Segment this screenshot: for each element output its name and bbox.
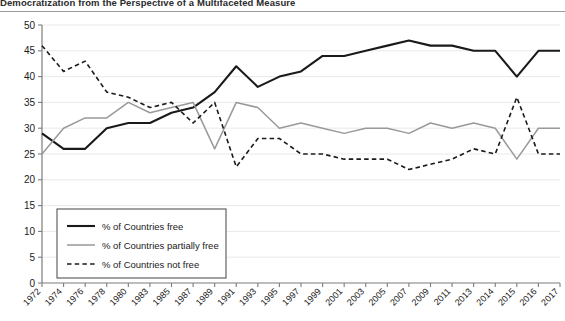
x-axis-tick-label: 2015 xyxy=(496,286,517,307)
x-axis-tick-label: 1987 xyxy=(172,286,193,307)
y-axis-tick-label: 20 xyxy=(24,174,36,185)
x-axis-tick-label: 2009 xyxy=(410,286,431,307)
x-axis-tick-label: 1993 xyxy=(237,286,258,307)
y-axis-tick-label: 30 xyxy=(24,123,36,134)
data-series-group xyxy=(42,40,560,169)
y-axis-tick-label: 5 xyxy=(29,252,35,263)
y-axis-tick-label: 40 xyxy=(24,71,36,82)
x-axis-ticks-group: 1972197419761978198019831985198719891991… xyxy=(21,283,560,308)
x-axis-tick-label: 2001 xyxy=(323,286,344,307)
line-chart: 05101520253035404550 1972197419761978198… xyxy=(0,12,565,321)
x-axis-tick-label: 1974 xyxy=(43,286,64,307)
y-axis-tick-label: 15 xyxy=(24,200,36,211)
x-axis-tick-label: 1985 xyxy=(151,286,172,307)
x-axis-tick-label: 1976 xyxy=(64,286,85,307)
x-axis-tick-label: 1995 xyxy=(259,286,280,307)
x-axis-tick-label: 1983 xyxy=(129,286,150,307)
x-axis-tick-label: 1980 xyxy=(108,286,129,307)
x-axis-tick-label: 2014 xyxy=(474,286,495,307)
y-axis-tick-label: 35 xyxy=(24,97,36,108)
chart-container: 05101520253035404550 1972197419761978198… xyxy=(0,12,565,321)
x-axis-tick-label: 1997 xyxy=(280,286,301,307)
x-axis-tick-label: 1978 xyxy=(86,286,107,307)
y-axis-tick-label: 45 xyxy=(24,45,36,56)
legend-item-label: % of Countries partially free xyxy=(102,240,219,251)
x-axis-tick-label: 2013 xyxy=(453,286,474,307)
x-axis-tick-label: 2016 xyxy=(518,286,539,307)
x-axis-tick-label: 1989 xyxy=(194,286,215,307)
chart-legend: % of Countries free% of Countries partia… xyxy=(57,209,226,278)
x-axis-tick-label: 2005 xyxy=(367,286,388,307)
legend-item-label: % of Countries free xyxy=(102,221,183,232)
x-axis-tick-label: 2007 xyxy=(388,286,409,307)
page-title: Democratization from the Perspective of … xyxy=(0,0,565,9)
x-axis-tick-label: 1972 xyxy=(21,286,42,307)
y-axis-tick-label: 10 xyxy=(24,226,36,237)
x-axis-tick-label: 1999 xyxy=(302,286,323,307)
series-line xyxy=(42,46,560,170)
x-axis-tick-label: 2003 xyxy=(345,286,366,307)
y-axis-tick-label: 50 xyxy=(24,20,36,31)
y-axis-tick-label: 25 xyxy=(24,149,36,160)
x-axis-tick-label: 1991 xyxy=(215,286,236,307)
x-axis-tick-label: 2017 xyxy=(539,286,560,307)
legend-item-label: % of Countries not free xyxy=(102,259,199,270)
y-axis-ticks-group: 05101520253035404550 xyxy=(24,20,42,289)
x-axis-tick-label: 2011 xyxy=(432,286,453,307)
